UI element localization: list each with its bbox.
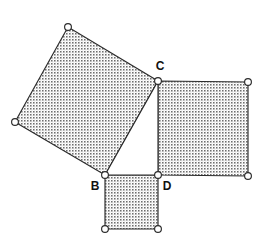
vertex-dot-square-cd-top-right [245,79,252,86]
vertex-dot-B [102,172,109,179]
square-on-leg-CD [158,81,248,176]
vertex-dot-square-bc-top [65,24,72,31]
vertex-dot-C [155,78,162,85]
vertex-label-C: C [156,59,165,73]
vertex-dot-D [155,172,162,179]
vertex-dot-square-bd-bottom-left [102,226,109,233]
geometry-figure-svg: C B D [0,0,261,233]
geometry-figure-canvas: C B D [0,0,261,233]
vertex-label-B: B [91,179,100,193]
vertex-dot-square-cd-bottom-right [245,173,252,180]
square-on-leg-BD [105,175,158,229]
vertex-label-D: D [163,179,172,193]
vertex-dot-square-bd-bottom-right [155,226,162,233]
vertex-dot-square-bc-left [12,119,19,126]
